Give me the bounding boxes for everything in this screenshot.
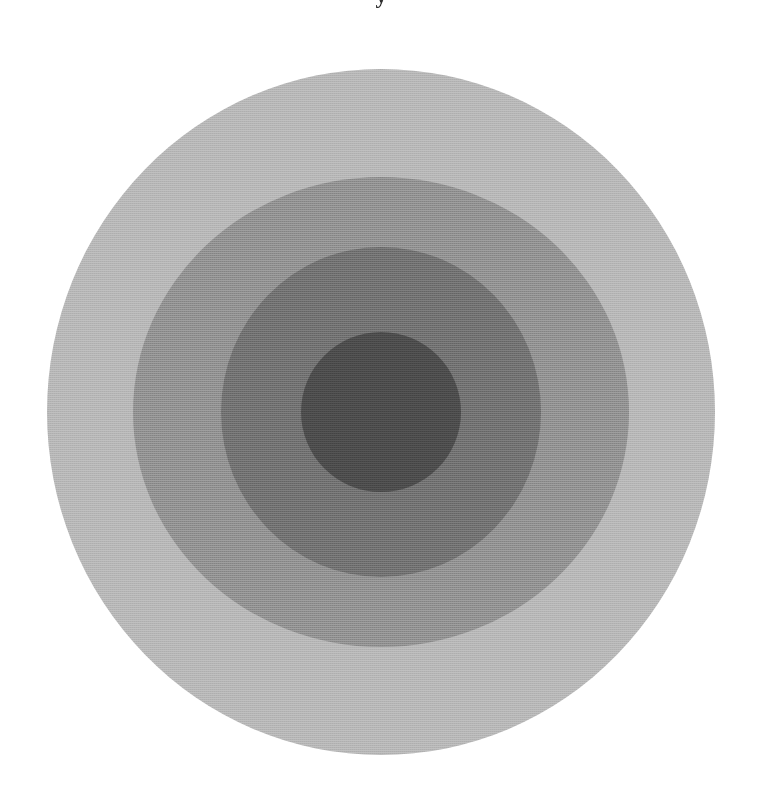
circles-svg [0,0,763,793]
disc-inner [301,332,461,492]
figure-canvas: y [0,0,763,793]
concentric-circles-diagram [0,0,763,793]
